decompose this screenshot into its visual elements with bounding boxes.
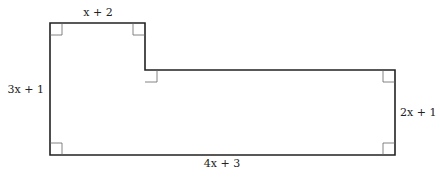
right-angle-icon <box>133 23 145 35</box>
label-bottom: 4x + 3 <box>204 157 240 170</box>
right-angle-icon <box>50 143 62 155</box>
right-angle-icon <box>145 70 157 82</box>
right-angle-markers <box>50 23 395 155</box>
shape-outline <box>50 23 395 155</box>
label-right: 2x + 1 <box>400 106 436 119</box>
right-angle-icon <box>50 23 62 35</box>
diagram: x + 2 3x + 1 2x + 1 4x + 3 <box>0 0 440 177</box>
right-angle-icon <box>383 143 395 155</box>
label-left: 3x + 1 <box>8 83 44 96</box>
right-angle-icon <box>383 70 395 82</box>
label-top: x + 2 <box>83 6 112 19</box>
